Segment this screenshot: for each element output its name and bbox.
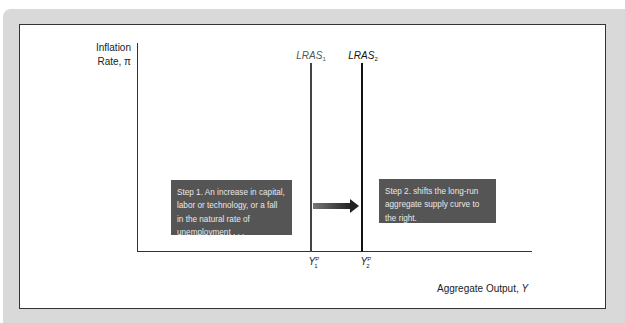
- tick-y1p: YP1: [308, 256, 317, 269]
- lras2-curve: [361, 63, 363, 252]
- step2-annotation: Step 2. shifts the long-run aggregate su…: [379, 179, 496, 223]
- x-axis: [137, 251, 532, 252]
- x-axis-label: Aggregate Output, Y: [437, 283, 528, 294]
- lras2-label-sub: 2: [374, 56, 377, 62]
- step1-annotation: Step 1. An increase in capital, labor or…: [171, 180, 292, 235]
- y-axis: [137, 43, 138, 252]
- y-axis-label: Inflation Rate, π: [96, 41, 131, 69]
- lras2-label: LRAS2: [348, 50, 377, 62]
- lras2-label-text: LRAS: [348, 50, 374, 61]
- tick-y1p-sub: 1: [314, 263, 317, 269]
- lras1-label-sub: 1: [322, 56, 325, 62]
- lras1-label-text: LRAS: [296, 50, 322, 61]
- tick-y2p: YP2: [360, 256, 369, 269]
- tick-y2p-sub: 2: [366, 263, 369, 269]
- y-axis-label-line2: Rate, π: [96, 55, 131, 69]
- tick-y1p-sup: P: [315, 256, 319, 262]
- y-axis-label-line1: Inflation: [96, 41, 131, 55]
- arrow-head-icon: [350, 199, 359, 213]
- x-axis-label-var: Y: [522, 283, 529, 294]
- shift-arrow: [313, 203, 351, 209]
- lras1-label: LRAS1: [296, 50, 325, 62]
- x-axis-label-text: Aggregate Output,: [437, 283, 522, 294]
- tick-y2p-sup: P: [367, 256, 371, 262]
- lras1-curve: [310, 63, 312, 252]
